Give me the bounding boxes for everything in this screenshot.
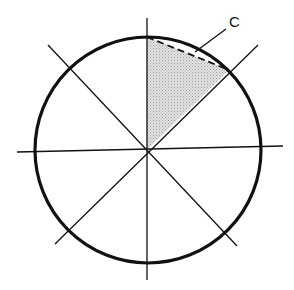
leader-line — [195, 29, 226, 52]
circle-diagram: C — [0, 0, 294, 290]
label-c: C — [229, 13, 240, 30]
